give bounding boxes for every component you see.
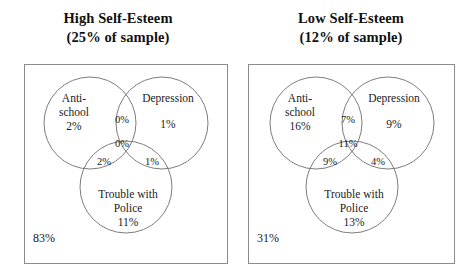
circle-trouble-with-police (306, 141, 398, 233)
venn-diagram-figure: High Self-Esteem (25% of sample) Anti- s… (0, 0, 473, 276)
panel-title-line2: (25% of sample) (0, 27, 236, 47)
panel-low-self-esteem: Low Self-Esteem (12% of sample) Anti- sc… (233, 0, 469, 276)
circle-anti-school (44, 77, 136, 169)
value-outside-none-of-these: 31% (257, 231, 279, 246)
value-outside-none-of-these: 83% (33, 231, 55, 246)
panel-high-self-esteem: High Self-Esteem (25% of sample) Anti- s… (0, 0, 236, 276)
panel-title-line1: High Self-Esteem (0, 8, 236, 28)
panel-title-line1: Low Self-Esteem (233, 8, 469, 28)
circle-depression (342, 77, 434, 169)
panel-title-line2: (12% of sample) (233, 27, 469, 47)
venn-circles (248, 64, 455, 264)
circle-anti-school (270, 77, 362, 169)
circle-trouble-with-police (80, 141, 172, 233)
circle-depression (116, 77, 208, 169)
